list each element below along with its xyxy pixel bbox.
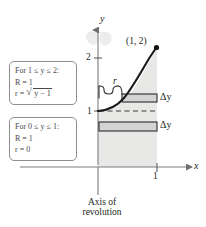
callout-lower-line-2: R = 1 (15, 133, 71, 145)
delta-y-label-upper: Δy (160, 92, 171, 102)
axis-caption-line-1: Axis of (88, 197, 116, 207)
callout-upper-line-3: r = √y − 1 (15, 88, 71, 100)
figure-canvas (0, 0, 206, 227)
callout-upper-line-2: R = 1 (15, 77, 71, 89)
washer-rect-lower (99, 122, 157, 131)
endpoint-dot (154, 45, 159, 50)
delta-y-label-lower: Δy (160, 120, 171, 130)
x-tick-label-1: 1 (153, 172, 158, 182)
callout-lower-line-1: For 0 ≤ y ≤ 1: (15, 121, 71, 133)
y-axis-label: y (100, 14, 104, 24)
y-tick-label-2: 2 (86, 53, 91, 63)
callout-lower-line-3: r = 0 (15, 144, 71, 156)
sqrt-expression: √y − 1 (26, 88, 52, 100)
callout-lower-interval: For 0 ≤ y ≤ 1: R = 1 r = 0 (9, 117, 77, 161)
sqrt-radical-icon: √ (26, 87, 32, 97)
rotation-swirl-icon (86, 32, 111, 45)
shaded-region (98, 48, 157, 167)
radius-label: r (113, 77, 117, 87)
axis-of-revolution-caption: Axis of revolution (62, 198, 142, 217)
washer-method-figure: y x 2 1 1 (1, 2) r Δy Δy Axis of revolut… (0, 0, 206, 227)
axis-caption-line-2: revolution (62, 208, 142, 218)
y-tick-label-1: 1 (87, 107, 92, 117)
point-label: (1, 2) (126, 37, 147, 47)
sqrt-radicand: y − 1 (33, 88, 52, 99)
callout-upper-line-1: For 1 ≤ y ≤ 2: (15, 65, 71, 77)
x-axis-label: x (194, 161, 198, 171)
callout-upper-interval: For 1 ≤ y ≤ 2: R = 1 r = √y − 1 (9, 61, 77, 105)
radius-brace (99, 86, 122, 98)
callout-upper-r-prefix: r = (15, 89, 26, 98)
